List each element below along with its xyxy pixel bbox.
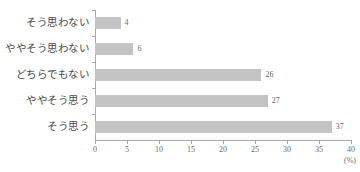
x-axis-tick [351,140,352,144]
bar [95,121,332,133]
x-axis-tick-label: 0 [93,146,97,154]
x-axis-tick-label: 35 [315,146,323,154]
bar-row: そう思う37 [95,114,351,140]
bar [95,69,261,81]
bar-chart: そう思わない4ややそう思わない6どちらでもない26ややそう思う27そう思う37 … [0,0,360,172]
x-axis-tick-label: 5 [125,146,129,154]
x-axis-tick [95,140,96,144]
x-axis-tick [191,140,192,144]
x-axis-tick [223,140,224,144]
y-axis-tick [92,114,95,115]
x-axis-tick [319,140,320,144]
x-axis-tick [255,140,256,144]
category-label: そう思う [47,122,89,133]
y-axis-tick [92,10,95,11]
x-axis-tick-label: 25 [251,146,259,154]
bar [95,43,133,55]
bar-value-label: 6 [137,45,141,53]
category-label: ややそう思う [26,96,89,107]
bar-value-label: 26 [265,71,273,79]
y-axis-tick [92,62,95,63]
bar-row: ややそう思う27 [95,88,351,114]
bar-row: どちらでもない26 [95,62,351,88]
x-axis-tick-label: 40 [347,146,355,154]
bar-value-label: 27 [272,97,280,105]
x-axis-tick-label: 30 [283,146,291,154]
category-label: そう思わない [26,18,89,29]
category-label: どちらでもない [16,70,90,81]
bar [95,95,268,107]
x-axis-tick [287,140,288,144]
bar-value-label: 37 [336,123,344,131]
x-axis-tick [159,140,160,144]
bar-row: ややそう思わない6 [95,36,351,62]
bar-row: そう思わない4 [95,10,351,36]
y-axis-tick [92,88,95,89]
bar-value-label: 4 [125,19,129,27]
y-axis-tick [92,36,95,37]
x-axis-tick-label: 10 [155,146,163,154]
x-axis-tick-label: 20 [219,146,227,154]
x-axis-unit-label: (%) [344,157,356,165]
x-axis-tick-label: 15 [187,146,195,154]
bar [95,17,121,29]
category-label: ややそう思わない [5,44,89,55]
x-axis-tick [127,140,128,144]
